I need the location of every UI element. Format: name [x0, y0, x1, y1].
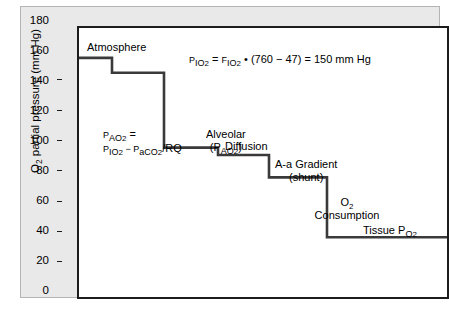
pao2l2-sub-aco: aCO: [139, 147, 158, 157]
y-tick-mark-140: [57, 79, 62, 80]
y-tick-label-0: 0: [15, 285, 49, 297]
y-tick-label-40: 40: [15, 225, 49, 237]
y-tick-label-20: 20: [15, 255, 49, 267]
y-tick-mark-60: [57, 201, 62, 202]
y-tick-mark-120: [57, 110, 62, 111]
pao2l2-mid: − P: [123, 144, 139, 154]
pio2-eq: =: [209, 53, 222, 65]
y-tick-label-60: 60: [15, 195, 49, 207]
pao2l2-tail: /RQ: [162, 142, 182, 154]
o2-consumption-line2: Consumption: [291, 209, 403, 222]
y-tick-label-100: 100: [15, 135, 49, 147]
alveolar-paren-open: (P: [210, 141, 221, 153]
y-tick-mark-40: [57, 231, 62, 232]
pio2-tail: • (760 − 47) = 150 mm Hg: [241, 53, 371, 65]
annotation-o2-consumption: O2 Consumption: [291, 196, 403, 222]
pio2-sub-io: IO: [195, 58, 205, 68]
annotation-aa-gradient: A-a Gradient (shunt): [275, 158, 337, 184]
aa-gradient-line2: (shunt): [275, 171, 337, 184]
y-tick-label-180: 180: [15, 15, 49, 27]
oxygen-cascade-staircase: [79, 28, 447, 297]
y-tick-mark-100: [57, 140, 62, 141]
y-tick-mark-80: [57, 170, 62, 171]
annotation-tissue-po2: Tissue PO2: [363, 224, 417, 237]
annotation-diffusion: Diffusion: [225, 140, 268, 153]
fio2-sub-io: IO: [227, 58, 237, 68]
figure-panel: Atmosphere PIO2 = FIO2 • (760 − 47) = 15…: [20, 6, 440, 298]
aa-gradient-line1: A-a Gradient: [275, 158, 337, 171]
pao2-eq: =: [126, 128, 135, 140]
o2-consumption-o: O: [341, 196, 350, 208]
annotation-atmosphere: Atmosphere: [87, 41, 146, 54]
plot-area: Atmosphere PIO2 = FIO2 • (760 − 47) = 15…: [77, 26, 449, 299]
y-tick-label-140: 140: [15, 75, 49, 87]
o2-consumption-line1: O2: [291, 196, 403, 209]
y-tick-label-160: 160: [15, 45, 49, 57]
pao2-formula-line1: PAO2 =: [103, 128, 182, 142]
annotation-pao2-formula: PAO2 = PIO2 − PaCO2/RQ: [103, 128, 182, 156]
tissue-po2-pre: Tissue P: [363, 224, 405, 236]
y-tick-label-80: 80: [15, 165, 49, 177]
pao2-formula-line2: PIO2 − PaCO2/RQ: [103, 142, 182, 156]
tissue-po2-sub-2: 2: [412, 230, 416, 239]
annotation-pio2-formula: PIO2 = FIO2 • (760 − 47) = 150 mm Hg: [189, 53, 371, 67]
y-tick-label-120: 120: [15, 105, 49, 117]
pao2l2-sub-io: IO: [109, 147, 119, 157]
y-tick-mark-20: [57, 261, 62, 262]
